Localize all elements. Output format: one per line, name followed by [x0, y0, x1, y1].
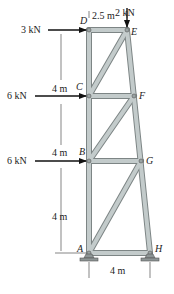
node-label-a: A [77, 244, 83, 254]
load-label-b: 6 kN [7, 156, 27, 166]
node-label-c: C [76, 82, 83, 92]
node-label-g: G [146, 156, 153, 166]
node-label-e: E [131, 27, 137, 37]
load-label-top: 2 kN [115, 8, 135, 18]
node-label-d: D [80, 16, 87, 26]
load-label-c: 6 kN [7, 91, 27, 101]
dim-height-3: 4 m [52, 212, 67, 222]
dim-height-2: 4 m [52, 148, 67, 158]
dim-height-1: 4 m [52, 84, 67, 94]
node-label-h: H [155, 244, 162, 254]
node-label-b: B [79, 147, 85, 157]
node-label-f: F [139, 91, 145, 101]
dim-top-width: 2.5 m [92, 11, 115, 21]
load-label-d: 3 kN [21, 25, 41, 35]
joint-pins [87, 28, 152, 255]
truss-members [89, 30, 150, 253]
truss-diagram [0, 0, 174, 294]
dim-base-width: 4 m [110, 266, 125, 276]
